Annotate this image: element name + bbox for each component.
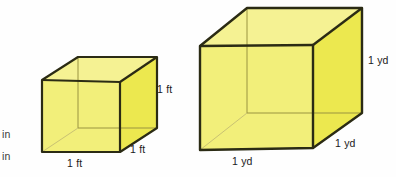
- cube-comparison-diagram: [0, 0, 396, 177]
- cutoff-label-in-upper: in: [2, 129, 11, 140]
- large-cube-depth-label: 1 yd: [335, 138, 356, 149]
- figure-canvas: in in 1 ft 1 ft 1 ft 1 yd 1 yd 1 yd: [0, 0, 396, 177]
- small-cube-depth-label: 1 ft: [130, 144, 145, 155]
- small-cube: [42, 57, 157, 152]
- large-cube-height-label: 1 yd: [368, 55, 389, 66]
- large-cube-width-label: 1 yd: [232, 156, 253, 167]
- small-cube-height-label: 1 ft: [157, 84, 172, 95]
- small-cube-front-face: [42, 80, 120, 152]
- large-cube-front-face: [200, 45, 313, 150]
- large-cube: [200, 8, 362, 150]
- large-cube-edge-top-front: [200, 45, 313, 46]
- cutoff-label-in-lower: in: [2, 151, 11, 162]
- small-cube-width-label: 1 ft: [67, 158, 82, 169]
